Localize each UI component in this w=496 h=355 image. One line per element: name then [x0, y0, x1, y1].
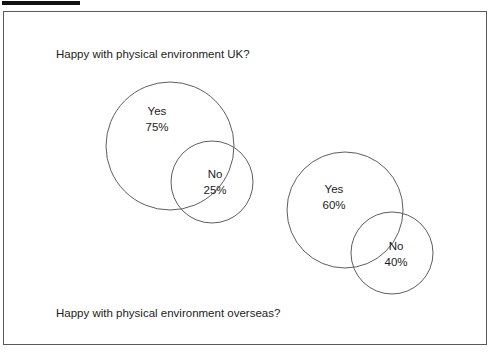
slide-frame	[3, 11, 487, 345]
overseas-question-label: Happy with physical environment overseas…	[56, 306, 280, 320]
uk-question-label: Happy with physical environment UK?	[56, 47, 250, 61]
top-marker-bar	[2, 1, 80, 5]
